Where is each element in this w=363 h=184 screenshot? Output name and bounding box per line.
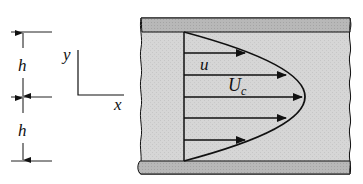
label-h-lower: h [18, 121, 27, 140]
bottom-wall [138, 161, 350, 174]
top-wall [141, 18, 350, 32]
label-u: u [200, 55, 209, 74]
label-h-upper: h [18, 56, 27, 75]
channel-flow-diagram: h h y x u Uc [0, 0, 363, 184]
dimension-annotation: h h [11, 32, 52, 161]
coordinate-axes: y x [61, 45, 124, 114]
axis-x-label: x [113, 95, 122, 114]
axes-icon [78, 50, 124, 95]
axis-y-label: y [61, 45, 71, 64]
